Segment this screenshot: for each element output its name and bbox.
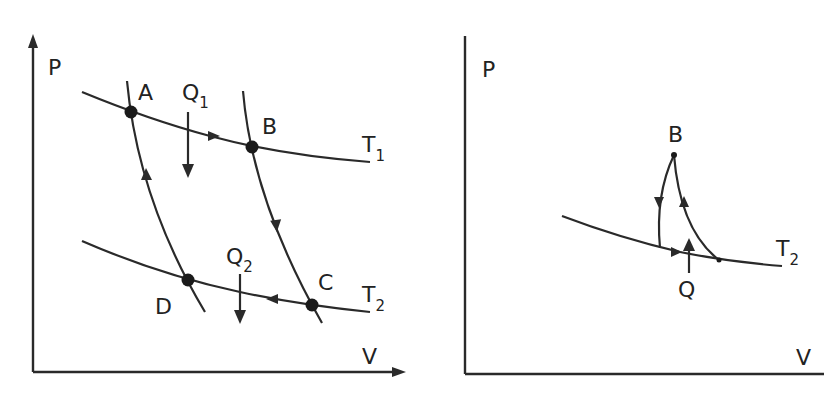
isotherm-t1 [82,92,370,162]
flow-arrow-down-icon [654,197,664,208]
v-axis-arrow-icon [392,367,406,377]
heat-arrow-q-head-icon [683,238,695,251]
point-b-right [671,152,677,158]
flow-arrow-cd-icon [266,294,278,304]
point-bottom-right [717,258,722,263]
point-a-label: A [138,80,153,105]
v-axis-label-right: V [796,345,811,370]
point-b-label: B [262,114,277,139]
cycle-path-right [674,155,719,260]
isotherm-t1-label: T1 [361,132,385,165]
heat-arrow-q1-head-icon [182,164,194,178]
flow-arrow-right-icon [671,247,682,257]
point-c [306,299,319,312]
flow-arrow-bc-icon [270,219,283,232]
pv-diagrams: P V A B C D Q1 Q2 T1 T2 [0,0,837,394]
p-axis-arrow-icon [28,34,38,48]
isotherm-t2-label: T2 [361,282,385,315]
heat-q1-label: Q1 [182,80,209,112]
adiabat-bc [243,91,322,323]
v-axis-label: V [362,344,377,369]
left-pv-diagram: P V A B C D Q1 Q2 T1 T2 [28,34,406,377]
point-d [182,274,195,287]
point-b-label-right: B [668,122,683,147]
point-a [125,106,138,119]
isotherm-t2-right-label: T2 [775,236,799,269]
point-b [246,141,259,154]
p-axis-label: P [48,55,61,80]
p-axis-label-right: P [482,57,495,82]
heat-q2-label: Q2 [226,244,253,276]
point-c-label: C [318,270,333,295]
right-pv-diagram: P V B Q T2 [465,36,824,374]
isotherm-t2-right [562,216,782,266]
point-d-label: D [155,294,172,319]
flow-arrow-ab-icon [208,131,220,141]
heat-arrow-q2-head-icon [234,310,246,324]
heat-q-label: Q [678,277,695,302]
